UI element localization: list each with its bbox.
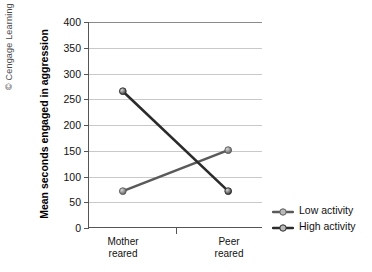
y-axis-tick-label: 300 bbox=[51, 68, 81, 80]
x-axis-category-line: reared bbox=[194, 248, 264, 260]
y-axis-tick-label: 0 bbox=[51, 222, 81, 234]
x-axis-category-label: Motherreared bbox=[88, 236, 158, 260]
legend-marker-icon bbox=[272, 204, 294, 216]
series-line bbox=[123, 150, 228, 191]
y-axis-tick bbox=[84, 228, 89, 229]
x-axis-category-line: reared bbox=[88, 248, 158, 260]
y-axis-tick-label: 350 bbox=[51, 42, 81, 54]
x-axis-tick bbox=[176, 227, 177, 234]
legend-label: Low activity bbox=[299, 204, 353, 216]
y-axis-tick-label: 400 bbox=[51, 16, 81, 28]
series-plot bbox=[89, 22, 262, 227]
x-axis-category-line: Peer bbox=[194, 236, 264, 248]
y-axis-tick-label: 150 bbox=[51, 145, 81, 157]
data-point-marker bbox=[119, 188, 126, 195]
series-line bbox=[123, 91, 228, 191]
x-axis-category-label: Peerreared bbox=[194, 236, 264, 260]
y-axis-title: Mean seconds engaged in aggression bbox=[37, 19, 51, 229]
x-axis-category-line: Mother bbox=[88, 236, 158, 248]
data-point-marker bbox=[225, 147, 232, 154]
legend-item: High activity bbox=[272, 219, 370, 233]
legend: Low activityHigh activity bbox=[272, 203, 370, 235]
y-axis-tick-label: 200 bbox=[51, 119, 81, 131]
y-axis-tick-label: 100 bbox=[51, 171, 81, 183]
legend-item: Low activity bbox=[272, 203, 370, 217]
plot-area: 050100150200250300350400 MotherrearedPee… bbox=[88, 22, 262, 228]
copyright-credit: © Cengage Learning 2013 bbox=[2, 0, 16, 90]
data-point-marker bbox=[225, 188, 232, 195]
legend-marker-icon bbox=[272, 220, 294, 232]
chart-figure: © Cengage Learning 2013 Mean seconds eng… bbox=[0, 0, 372, 272]
legend-label: High activity bbox=[299, 220, 356, 232]
y-axis-tick-label: 50 bbox=[51, 196, 81, 208]
y-axis-tick-label: 250 bbox=[51, 93, 81, 105]
data-point-marker bbox=[119, 88, 126, 95]
